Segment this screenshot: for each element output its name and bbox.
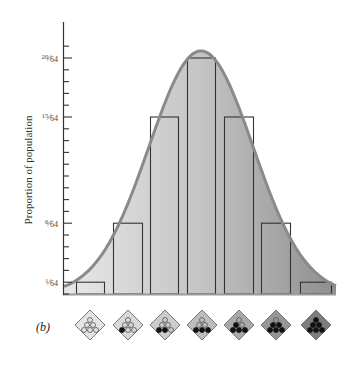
genotype-diamonds [75,310,331,340]
dark-allele-icon [231,328,236,333]
genotype-diamond [75,310,105,340]
dark-allele-icon [120,328,125,333]
dark-allele-icon [317,323,322,328]
genotype-diamond [261,310,291,340]
genotype-diamond [301,310,331,340]
genotype-diamond [187,310,217,340]
y-tick-label: 15⁄64 [41,112,58,123]
dark-allele-icon [200,328,205,333]
dark-allele-icon [314,318,319,323]
dark-allele-icon [308,328,313,333]
y-tick-label: 6⁄64 [45,218,58,229]
y-tick-label: 1⁄64 [45,277,58,288]
genotype-diamond [113,310,143,340]
dark-allele-icon [157,328,162,333]
dark-allele-icon [314,328,319,333]
dark-allele-icon [271,323,276,328]
dark-allele-icon [280,328,285,333]
dark-allele-icon [237,328,242,333]
genotype-diamond [224,310,254,340]
dark-allele-icon [194,328,199,333]
dark-allele-icon [311,323,316,328]
dark-allele-icon [163,328,168,333]
y-axis-tick-labels: 1⁄646⁄6415⁄6420⁄64 [41,53,58,288]
genotype-diamond [150,310,180,340]
dark-allele-icon [274,328,279,333]
dark-allele-icon [243,328,248,333]
dark-allele-icon [234,323,239,328]
distribution-area [64,51,336,294]
dark-allele-icon [268,328,273,333]
panel-label: (b) [36,320,50,334]
dark-allele-icon [320,328,325,333]
polygenic-distribution-figure: 1⁄646⁄6415⁄6420⁄64 Proportion of populat… [0,0,352,368]
y-tick-label: 20⁄64 [41,53,58,64]
y-axis-label: Proportion of population [22,115,34,224]
dark-allele-icon [277,323,282,328]
dark-allele-icon [206,328,211,333]
y-axis-ticks [63,46,72,294]
